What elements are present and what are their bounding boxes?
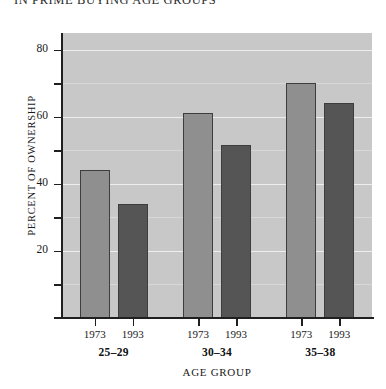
y-tick-major — [54, 50, 62, 52]
chart-title: IN PRIME BUYING AGE GROUPS — [14, 0, 374, 8]
x-axis-line — [54, 317, 374, 319]
y-axis-title: Percent of ownership — [26, 71, 37, 261]
x-year-label: 1993 — [110, 328, 156, 340]
bar-35-38-1973 — [286, 83, 316, 318]
y-tick-major — [54, 251, 62, 253]
x-group-label: 30–34 — [162, 346, 272, 358]
bar-25-29-1973 — [80, 170, 110, 318]
y-tick-minor — [54, 150, 62, 152]
x-group-label: 35–38 — [265, 346, 375, 358]
x-year-label: 1993 — [213, 328, 259, 340]
y-tick-major — [54, 117, 62, 119]
y-tick-minor — [54, 217, 62, 219]
x-group-label: 25–29 — [59, 346, 169, 358]
x-tick — [198, 318, 200, 326]
plot-area — [62, 33, 372, 318]
bar-35-38-1993 — [324, 103, 354, 318]
y-tick-label: 80 — [8, 42, 48, 54]
x-tick — [339, 318, 341, 326]
y-tick-minor — [54, 284, 62, 286]
y-tick-major — [54, 184, 62, 186]
y-tick-minor — [54, 83, 62, 85]
bar-30-34-1993 — [221, 145, 251, 318]
x-axis-title: Age Group — [62, 366, 372, 378]
x-tick — [301, 318, 303, 326]
bars-layer — [62, 33, 372, 318]
x-year-label: 1993 — [316, 328, 362, 340]
x-tick — [236, 318, 238, 326]
x-tick — [95, 318, 97, 326]
y-axis-line — [61, 33, 63, 319]
bar-chart-figure: IN PRIME BUYING AGE GROUPS 20406080 1973… — [0, 0, 386, 389]
bar-25-29-1993 — [118, 204, 148, 318]
x-tick — [133, 318, 135, 326]
bar-30-34-1973 — [183, 113, 213, 318]
